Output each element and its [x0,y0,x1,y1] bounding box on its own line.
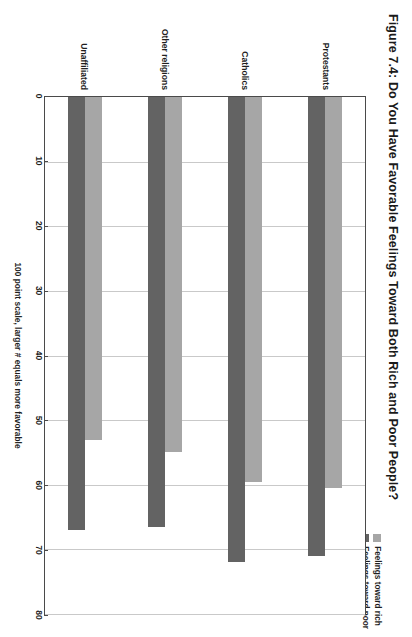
bar-protestants-poor [308,97,325,556]
tick-label-10: 10 [34,156,44,165]
bar-catholics-rich [245,97,262,482]
tickmark-50 [44,420,48,421]
bar-group [205,97,285,614]
tick-label-40: 40 [34,351,44,360]
bar-group [285,97,365,614]
tickmark-0 [44,96,48,97]
category-label-protestants: Protestants [321,43,331,90]
bar-group [125,97,205,614]
tickmark-60 [44,485,48,486]
bar-series-container [45,97,365,614]
tick-label-20: 20 [34,221,44,230]
tick-label-0: 0 [34,94,44,99]
legend-item-rich: Feelings toward rich [373,534,382,629]
bar-group [45,97,125,614]
legend-label-rich: Feelings toward rich [373,546,382,626]
category-label-unaffiliated: Unaffiliated [79,43,89,90]
tick-label-30: 30 [34,286,44,295]
tickmark-20 [44,226,48,227]
plot-area [44,96,366,615]
tickmark-80 [44,615,48,616]
tick-label-80: 80 [34,610,44,619]
tick-label-70: 70 [34,545,44,554]
category-label-other-religions: Other religions [160,29,170,90]
figure-title: Figure 7.4: Do You Have Favorable Feelin… [386,14,400,534]
legend-swatch-rich-icon [374,534,382,542]
rotated-figure-canvas: Figure 7.4: Do You Have Favorable Feelin… [0,0,412,637]
bar-unaffiliated-rich [85,97,102,440]
value-axis-ticks: 01020304050607080 [30,96,44,615]
bar-other-religions-poor [148,97,165,527]
figure-container: Figure 7.4: Do You Have Favorable Feelin… [0,0,412,637]
category-label-catholics: Catholics [240,51,250,90]
bar-catholics-poor [228,97,245,562]
tick-label-60: 60 [34,481,44,490]
tick-label-50: 50 [34,416,44,425]
category-axis-labels: ProtestantsCatholicsOther religionsUnaff… [44,20,366,94]
bar-protestants-rich [325,97,342,488]
tickmark-70 [44,550,48,551]
tickmark-30 [44,291,48,292]
tickmark-40 [44,356,48,357]
bar-unaffiliated-poor [68,97,85,530]
gridline-80 [45,614,365,615]
bar-other-religions-rich [165,97,182,452]
tickmark-10 [44,161,48,162]
value-axis-title: 100 point scale, larger # equals more fa… [13,96,23,615]
